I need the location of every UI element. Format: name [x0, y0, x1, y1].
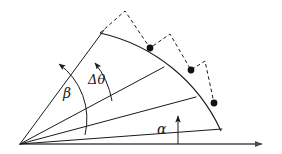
arc-dot-2	[188, 67, 195, 74]
delta-theta-label: Δθ	[88, 73, 105, 86]
ray-beta	[20, 30, 104, 144]
ray-alpha	[20, 129, 222, 144]
main-arc	[100, 33, 221, 131]
beta-label: β	[63, 86, 71, 100]
arc-dot-1	[147, 45, 154, 52]
arc-dot-3	[211, 100, 218, 107]
main-arc-group	[100, 33, 221, 131]
figure-canvas: β Δθ α	[0, 0, 282, 154]
polar-angle-diagram-svg	[0, 0, 282, 154]
arc-marker-dots	[147, 45, 218, 107]
alpha-label: α	[157, 122, 166, 136]
ray-second	[20, 97, 196, 144]
